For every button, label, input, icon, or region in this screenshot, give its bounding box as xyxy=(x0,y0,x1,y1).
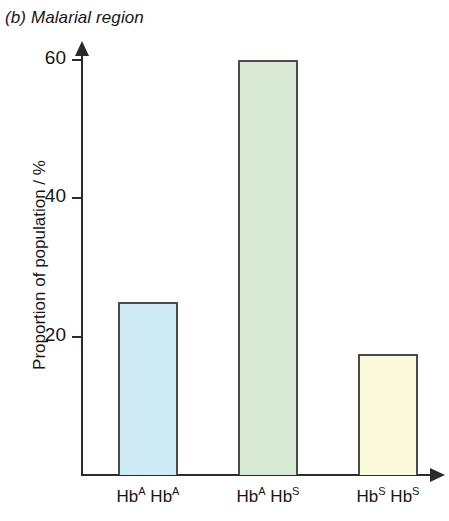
bar-1 xyxy=(118,302,178,475)
x-axis-arrow-icon xyxy=(430,468,445,482)
y-tick-mark xyxy=(72,336,82,338)
y-axis-label: Proportion of population / % xyxy=(30,105,50,425)
x-category-label-1: HbA HbA xyxy=(88,487,208,507)
y-tick-mark xyxy=(72,197,82,199)
y-tick-label: 60 xyxy=(45,47,66,69)
bar-2 xyxy=(238,60,298,476)
y-tick-label: 20 xyxy=(45,324,66,346)
y-tick-label: 40 xyxy=(45,185,66,207)
chart-title: (b) Malarial region xyxy=(5,8,144,28)
y-axis-line xyxy=(81,52,83,476)
x-category-label-3: HbS HbS xyxy=(328,487,448,507)
bar-chart: (b) Malarial region Proportion of popula… xyxy=(0,0,449,521)
y-tick-mark xyxy=(72,59,82,61)
x-category-label-2: HbA HbS xyxy=(208,487,328,507)
y-axis-arrow-icon xyxy=(75,41,89,56)
bar-3 xyxy=(358,354,418,475)
